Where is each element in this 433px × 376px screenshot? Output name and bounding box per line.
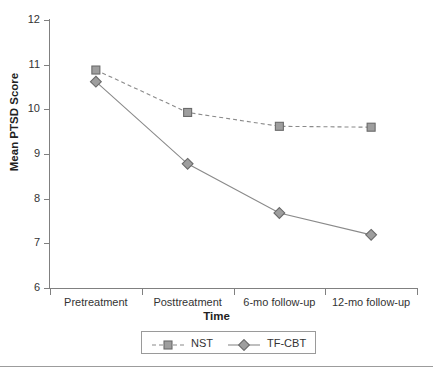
x-tick-label: 12-mo follow-up <box>325 296 417 309</box>
series-nst <box>92 66 375 131</box>
legend-label: NST <box>191 337 213 349</box>
x-tick-label: Posttreatment <box>142 296 234 309</box>
data-point-marker <box>164 341 172 349</box>
y-tick-mark <box>44 199 50 200</box>
y-tick-mark <box>44 109 50 110</box>
y-tick-label: 6 <box>14 282 40 293</box>
data-point-marker <box>274 208 285 219</box>
data-point-marker <box>184 108 192 116</box>
data-point-marker <box>239 339 250 350</box>
series-line <box>96 70 371 127</box>
legend-item-nst[interactable]: NST <box>151 337 213 349</box>
x-tick-mark <box>142 289 143 295</box>
legend-item-tf-cbt[interactable]: TF-CBT <box>227 337 306 349</box>
data-point-marker <box>92 66 100 74</box>
x-axis-title: Time <box>0 310 433 322</box>
legend-swatch-diamond-icon <box>227 337 261 349</box>
x-tick-mark <box>234 289 235 295</box>
data-point-marker <box>367 123 375 131</box>
x-tick-mark <box>325 289 326 295</box>
legend-label: TF-CBT <box>267 337 306 349</box>
y-tick-mark <box>44 20 50 21</box>
data-point-marker <box>366 229 377 240</box>
y-tick-mark <box>44 154 50 155</box>
y-tick-label: 12 <box>14 14 40 25</box>
x-tick-label: Pretreatment <box>50 296 142 309</box>
data-point-marker <box>182 158 193 169</box>
y-tick-mark <box>44 243 50 244</box>
ptsd-score-line-chart: 6789101112 PretreatmentPosttreatment6-mo… <box>0 0 433 376</box>
series-tf-cbt <box>90 76 376 240</box>
x-tick-mark <box>417 289 418 295</box>
y-tick-label: 8 <box>14 193 40 204</box>
x-tick-mark <box>50 289 51 295</box>
y-tick-mark <box>44 65 50 66</box>
bottom-divider <box>0 366 433 367</box>
chart-legend: NSTTF-CBT <box>141 331 316 354</box>
data-point-marker <box>275 122 283 130</box>
legend-swatch-square-icon <box>151 337 185 349</box>
x-tick-label: 6-mo follow-up <box>234 296 326 309</box>
y-tick-label: 7 <box>14 237 40 248</box>
y-axis-title: Mean PTSD Score <box>8 62 20 182</box>
series-line <box>96 82 371 235</box>
data-point-marker <box>90 76 101 87</box>
